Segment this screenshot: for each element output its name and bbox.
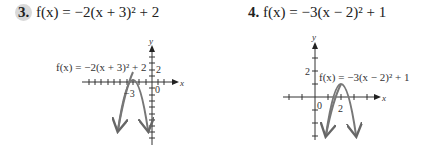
- svg-text:2: 2: [156, 64, 161, 75]
- svg-text:2: 2: [305, 66, 310, 77]
- svg-text:x: x: [381, 93, 386, 103]
- svg-text:−3: −3: [124, 88, 135, 99]
- svg-text:2: 2: [338, 103, 343, 114]
- graphs: x y 2 0 −3 f(x) = −2(x + 3)² + 2 x y 2 0…: [0, 0, 426, 155]
- graph-2: x y 2 0 2 f(x) = −3(x − 2)² + 1: [283, 32, 409, 140]
- svg-text:f(x) = −3(x − 2)² + 1: f(x) = −3(x − 2)² + 1: [319, 71, 409, 84]
- svg-text:0: 0: [317, 100, 322, 111]
- svg-text:f(x) = −2(x + 3)² + 2: f(x) = −2(x + 3)² + 2: [56, 61, 146, 74]
- svg-text:x: x: [179, 78, 184, 88]
- svg-text:y: y: [148, 36, 153, 46]
- svg-text:y: y: [311, 32, 316, 42]
- svg-text:0: 0: [155, 84, 160, 95]
- graph-1: x y 2 0 −3 f(x) = −2(x + 3)² + 2: [56, 36, 184, 145]
